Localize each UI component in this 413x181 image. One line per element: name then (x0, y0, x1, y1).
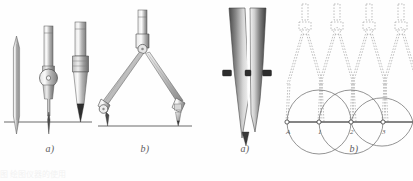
needle-point-attachment (13, 36, 19, 134)
graphite-tip (77, 104, 84, 122)
adjusting-screw-right (263, 70, 272, 76)
extension-bar (138, 10, 147, 36)
panel-caption-right-a: a) (233, 143, 257, 154)
compass-ghost-outline (350, 4, 388, 122)
station-point (285, 120, 289, 124)
lead-holder-attachment (73, 22, 89, 122)
station-point (317, 120, 321, 124)
left-leg (103, 52, 144, 104)
point-label: 3 (381, 128, 386, 136)
right-leg (146, 52, 184, 104)
compass-ghost-outline (382, 4, 413, 122)
compass-ghost-outline (286, 4, 324, 122)
ruling-pen-and-stepoff-figure: a) (205, 0, 410, 181)
pen-tip (177, 121, 180, 126)
clipped-caption-text: 图 绘图仪器的使用 (0, 168, 410, 180)
pen-nib-attachment (40, 26, 58, 134)
pen-leg (172, 98, 185, 126)
assembled-compass-panel: b) (90, 0, 200, 181)
pivot-head (136, 34, 149, 54)
stepoff-arc-construction-panel: A 1 2 3 b) (285, 0, 410, 181)
point-label: 1 (318, 128, 322, 136)
station-point (349, 120, 353, 124)
point-label: 2 (350, 128, 354, 136)
panel-caption-left-b: b) (133, 143, 157, 154)
center-clamp (245, 70, 251, 76)
panel-caption-right-b: b) (342, 143, 366, 154)
panel-caption-left-a: a) (38, 143, 62, 154)
station-point (381, 120, 385, 124)
point-label: A (285, 128, 291, 136)
adjusting-screw-left (223, 70, 232, 76)
compass-attachments-figure: a) (0, 0, 200, 181)
compass-ghost-outline (318, 4, 356, 122)
compass-attachment-parts-panel: a) (0, 0, 100, 181)
